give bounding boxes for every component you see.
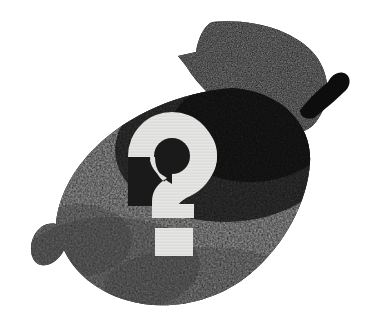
question-mark-stem-bar [154, 204, 194, 218]
lemon-question-illustration [0, 0, 389, 331]
image-canvas: Mystery Lemon Silhouette [0, 0, 389, 331]
question-mark-dot [155, 228, 193, 256]
